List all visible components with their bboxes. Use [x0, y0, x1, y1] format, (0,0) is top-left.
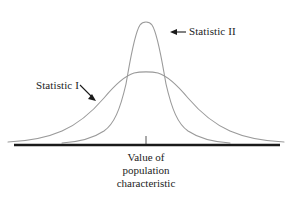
- statistic-two-arrow-icon: [170, 29, 186, 35]
- statistic-one-label: Statistic I: [36, 79, 79, 92]
- axis-caption-line-3: characteristic: [96, 177, 196, 190]
- statistic-two-curve: [62, 22, 230, 143]
- axis-caption: Value of population characteristic: [96, 151, 196, 190]
- sampling-distribution-figure: Statistic II Statistic I Value of popula…: [0, 0, 294, 201]
- axis-caption-line-1: Value of: [96, 151, 196, 164]
- statistic-one-arrow-icon: [80, 85, 96, 101]
- statistic-two-label: Statistic II: [189, 25, 236, 38]
- axis-caption-line-2: population: [96, 164, 196, 177]
